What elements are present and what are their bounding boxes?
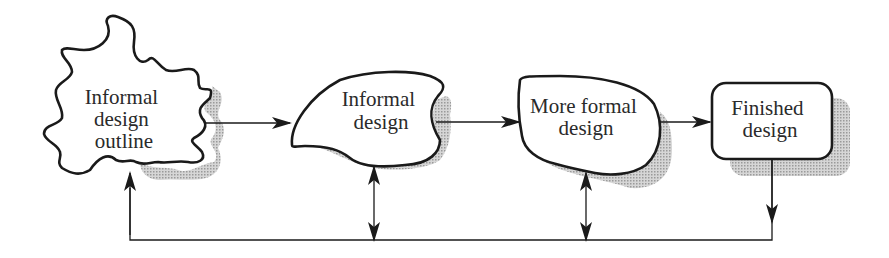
feedback-loop [130,160,772,240]
design-process-diagram: Informal design outline Informal design … [0,0,889,258]
finished-label: Finished design [731,96,809,142]
feedback-line [130,160,772,240]
outline-label: Informal design outline [85,85,164,153]
